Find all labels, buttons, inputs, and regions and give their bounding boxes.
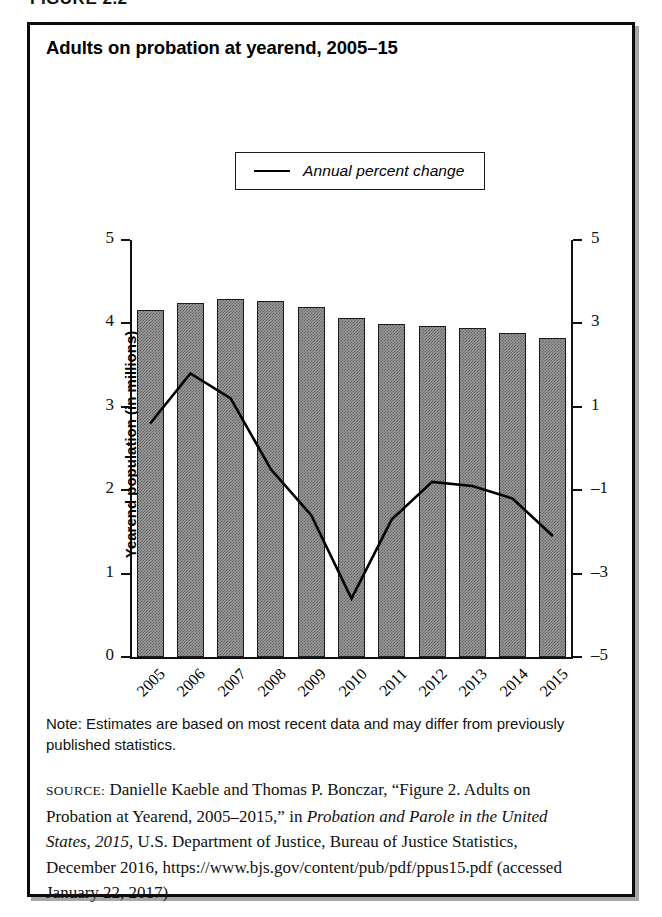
x-axis-tick-label: 2008: [242, 665, 290, 713]
source-label: SOURCE:: [46, 783, 105, 798]
y-axis-right-tick-label: –1: [591, 478, 635, 498]
y-axis-right-tick-label: 1: [591, 395, 635, 415]
chart-legend: Annual percent change: [235, 152, 485, 190]
y-axis-right-tick: [573, 239, 582, 241]
y-axis-right-tick: [573, 573, 582, 575]
y-axis-right-tick-label: –5: [591, 645, 635, 665]
y-axis-right-tick-label: 3: [591, 311, 635, 331]
y-axis-right-tick: [573, 656, 582, 658]
figure-caption: FIGURE 2.2: [30, 0, 128, 9]
annual-percent-change-line: [150, 373, 553, 598]
y-axis-left-tick-label: 5: [74, 228, 114, 248]
chart-note: Note: Estimates are based on most recent…: [46, 713, 619, 755]
legend-item-label: Annual percent change: [303, 162, 465, 180]
x-axis-tick-label: 2015: [524, 665, 572, 713]
figure-frame: Adults on probation at yearend, 2005–15 …: [27, 22, 635, 897]
y-axis-left-tick-label: 2: [74, 478, 114, 498]
figure-page: FIGURE 2.2 Adults on probation at yearen…: [0, 0, 662, 917]
chart-title: Adults on probation at yearend, 2005–15: [46, 37, 398, 59]
x-axis-tick-label: 2013: [443, 665, 491, 713]
y-axis-left-tick: [121, 656, 130, 658]
y-axis-left-tick: [121, 239, 130, 241]
x-axis-tick-label: 2011: [362, 665, 410, 713]
y-axis-left-tick-label: 0: [74, 645, 114, 665]
line-series: [130, 240, 573, 657]
x-axis-tick-label: 2005: [121, 665, 169, 713]
y-axis-left-tick-label: 3: [74, 395, 114, 415]
x-axis-tick-label: 2007: [201, 665, 249, 713]
y-axis-left-tick-label: 4: [74, 311, 114, 331]
y-axis-right-tick: [573, 406, 582, 408]
line-marker-icon: [254, 170, 290, 172]
x-axis-tick-label: 2012: [403, 665, 451, 713]
y-axis-right-tick: [573, 489, 582, 491]
x-axis: [130, 657, 573, 659]
plot-area: 543210 531–1–3–5 Yearend population (in …: [130, 240, 573, 657]
x-axis-tick-label: 2006: [161, 665, 209, 713]
y-axis-left-tick-label: 1: [74, 562, 114, 582]
y-axis-right-tick: [573, 322, 582, 324]
x-axis-tick-label: 2014: [483, 665, 531, 713]
x-axis-tick-label: 2010: [322, 665, 370, 713]
y-axis-right-tick-label: 5: [591, 228, 635, 248]
x-axis-tick-label: 2009: [282, 665, 330, 713]
chart-source: SOURCE: Danielle Kaeble and Thomas P. Bo…: [46, 777, 586, 906]
y-axis-right-tick-label: –3: [591, 562, 635, 582]
